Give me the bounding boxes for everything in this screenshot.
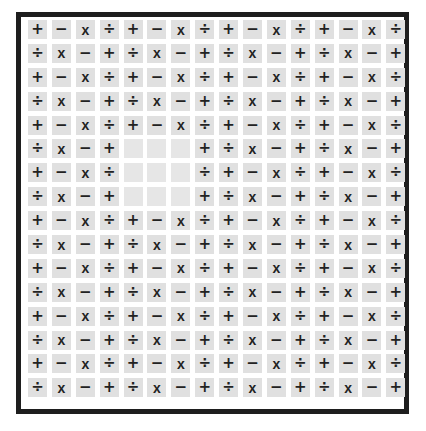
minus-icon[interactable]: − bbox=[52, 259, 71, 278]
plus-icon[interactable]: + bbox=[219, 20, 238, 39]
minus-icon[interactable]: − bbox=[243, 20, 262, 39]
plus-icon[interactable]: + bbox=[28, 20, 47, 39]
minus-icon[interactable]: − bbox=[147, 307, 166, 326]
divide-icon[interactable]: ÷ bbox=[195, 259, 214, 278]
minus-icon[interactable]: − bbox=[243, 259, 262, 278]
minus-icon[interactable]: − bbox=[76, 235, 95, 254]
plus-icon[interactable]: + bbox=[100, 44, 119, 63]
times-icon[interactable]: x bbox=[52, 44, 71, 63]
divide-icon[interactable]: ÷ bbox=[291, 68, 310, 87]
divide-icon[interactable]: ÷ bbox=[195, 20, 214, 39]
times-icon[interactable]: x bbox=[76, 20, 95, 39]
plus-icon[interactable]: + bbox=[195, 283, 214, 302]
divide-icon[interactable]: ÷ bbox=[219, 283, 238, 302]
minus-icon[interactable]: − bbox=[171, 44, 190, 63]
times-icon[interactable]: x bbox=[267, 163, 286, 182]
divide-icon[interactable]: ÷ bbox=[124, 331, 143, 350]
minus-icon[interactable]: − bbox=[76, 187, 95, 206]
minus-icon[interactable]: − bbox=[339, 68, 358, 87]
times-icon[interactable]: x bbox=[362, 211, 381, 230]
minus-icon[interactable]: − bbox=[267, 331, 286, 350]
divide-icon[interactable]: ÷ bbox=[386, 307, 405, 326]
times-icon[interactable]: x bbox=[76, 163, 95, 182]
divide-icon[interactable]: ÷ bbox=[386, 116, 405, 135]
divide-icon[interactable]: ÷ bbox=[315, 331, 334, 350]
times-icon[interactable]: x bbox=[52, 187, 71, 206]
divide-icon[interactable]: ÷ bbox=[219, 92, 238, 111]
plus-icon[interactable]: + bbox=[315, 259, 334, 278]
minus-icon[interactable]: − bbox=[362, 187, 381, 206]
times-icon[interactable]: x bbox=[147, 331, 166, 350]
divide-icon[interactable]: ÷ bbox=[315, 378, 334, 397]
divide-icon[interactable]: ÷ bbox=[124, 92, 143, 111]
plus-icon[interactable]: + bbox=[386, 283, 405, 302]
plus-icon[interactable]: + bbox=[219, 259, 238, 278]
plus-icon[interactable]: + bbox=[195, 187, 214, 206]
times-icon[interactable]: x bbox=[267, 211, 286, 230]
divide-icon[interactable]: ÷ bbox=[386, 259, 405, 278]
plus-icon[interactable]: + bbox=[100, 283, 119, 302]
times-icon[interactable]: x bbox=[267, 116, 286, 135]
minus-icon[interactable]: − bbox=[362, 378, 381, 397]
divide-icon[interactable]: ÷ bbox=[124, 235, 143, 254]
minus-icon[interactable]: − bbox=[76, 331, 95, 350]
times-icon[interactable]: x bbox=[339, 139, 358, 158]
minus-icon[interactable]: − bbox=[147, 211, 166, 230]
times-icon[interactable]: x bbox=[267, 307, 286, 326]
plus-icon[interactable]: + bbox=[124, 68, 143, 87]
times-icon[interactable]: x bbox=[267, 259, 286, 278]
blank-cell[interactable] bbox=[124, 139, 143, 158]
minus-icon[interactable]: − bbox=[52, 307, 71, 326]
divide-icon[interactable]: ÷ bbox=[315, 235, 334, 254]
plus-icon[interactable]: + bbox=[100, 331, 119, 350]
times-icon[interactable]: x bbox=[362, 163, 381, 182]
plus-icon[interactable]: + bbox=[315, 68, 334, 87]
times-icon[interactable]: x bbox=[339, 92, 358, 111]
plus-icon[interactable]: + bbox=[28, 163, 47, 182]
plus-icon[interactable]: + bbox=[219, 211, 238, 230]
divide-icon[interactable]: ÷ bbox=[100, 211, 119, 230]
minus-icon[interactable]: − bbox=[362, 139, 381, 158]
plus-icon[interactable]: + bbox=[291, 44, 310, 63]
blank-cell[interactable] bbox=[171, 163, 190, 182]
plus-icon[interactable]: + bbox=[28, 307, 47, 326]
divide-icon[interactable]: ÷ bbox=[100, 163, 119, 182]
blank-cell[interactable] bbox=[147, 139, 166, 158]
divide-icon[interactable]: ÷ bbox=[124, 378, 143, 397]
divide-icon[interactable]: ÷ bbox=[195, 163, 214, 182]
blank-cell[interactable] bbox=[147, 187, 166, 206]
times-icon[interactable]: x bbox=[76, 354, 95, 373]
plus-icon[interactable]: + bbox=[386, 187, 405, 206]
minus-icon[interactable]: − bbox=[243, 354, 262, 373]
divide-icon[interactable]: ÷ bbox=[386, 163, 405, 182]
plus-icon[interactable]: + bbox=[195, 378, 214, 397]
divide-icon[interactable]: ÷ bbox=[315, 187, 334, 206]
divide-icon[interactable]: ÷ bbox=[100, 68, 119, 87]
times-icon[interactable]: x bbox=[362, 68, 381, 87]
blank-cell[interactable] bbox=[124, 163, 143, 182]
minus-icon[interactable]: − bbox=[362, 44, 381, 63]
plus-icon[interactable]: + bbox=[219, 307, 238, 326]
divide-icon[interactable]: ÷ bbox=[386, 68, 405, 87]
minus-icon[interactable]: − bbox=[267, 235, 286, 254]
times-icon[interactable]: x bbox=[76, 211, 95, 230]
divide-icon[interactable]: ÷ bbox=[28, 331, 47, 350]
times-icon[interactable]: x bbox=[267, 20, 286, 39]
minus-icon[interactable]: − bbox=[243, 163, 262, 182]
minus-icon[interactable]: − bbox=[362, 283, 381, 302]
times-icon[interactable]: x bbox=[147, 378, 166, 397]
plus-icon[interactable]: + bbox=[28, 259, 47, 278]
divide-icon[interactable]: ÷ bbox=[291, 354, 310, 373]
times-icon[interactable]: x bbox=[362, 259, 381, 278]
times-icon[interactable]: x bbox=[362, 354, 381, 373]
minus-icon[interactable]: − bbox=[171, 331, 190, 350]
plus-icon[interactable]: + bbox=[195, 44, 214, 63]
divide-icon[interactable]: ÷ bbox=[28, 378, 47, 397]
times-icon[interactable]: x bbox=[52, 378, 71, 397]
plus-icon[interactable]: + bbox=[315, 20, 334, 39]
divide-icon[interactable]: ÷ bbox=[100, 20, 119, 39]
times-icon[interactable]: x bbox=[339, 331, 358, 350]
plus-icon[interactable]: + bbox=[124, 259, 143, 278]
plus-icon[interactable]: + bbox=[100, 235, 119, 254]
plus-icon[interactable]: + bbox=[219, 116, 238, 135]
